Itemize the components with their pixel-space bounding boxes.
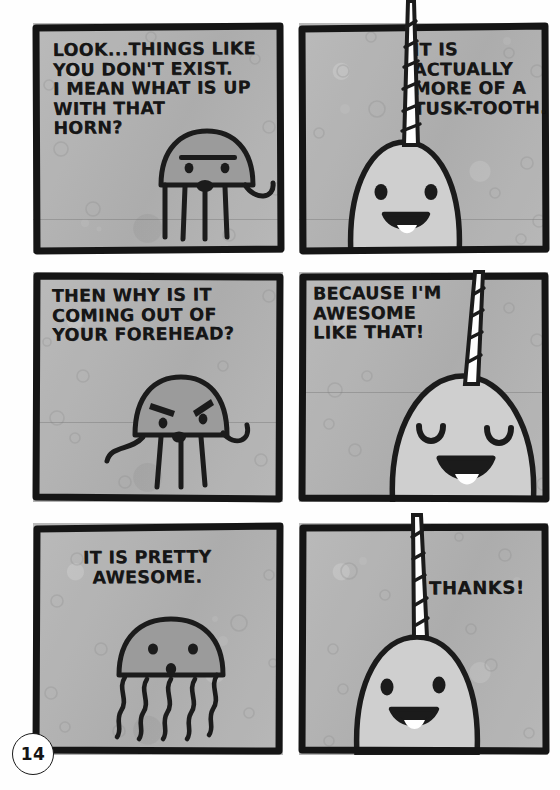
narwhal-tusk: [391, 0, 431, 147]
jellyfish-character: [151, 123, 279, 243]
comic-panel-3: THEN WHY IS IT COMING OUT OF YOUR FOREHE…: [33, 272, 283, 502]
comic-panel-2: IT IS ACTUALLY MORE OF A TUSK-TOOTH.: [299, 23, 548, 253]
panel-1-caption: LOOK...THINGS LIKE YOU DON'T EXIST. I ME…: [53, 39, 257, 139]
comic-page: LOOK...THINGS LIKE YOU DON'T EXIST. I ME…: [0, 0, 560, 790]
panel-5-caption: IT IS PRETTY AWESOME.: [83, 547, 212, 587]
narwhal-tusk: [451, 270, 495, 386]
page-number-badge: 14: [12, 733, 54, 775]
page-number-label: 14: [21, 744, 46, 764]
comic-panel-1: LOOK...THINGS LIKE YOU DON'T EXIST. I ME…: [33, 23, 283, 253]
panel-2-caption: IT IS ACTUALLY MORE OF A TUSK-TOOTH.: [413, 39, 547, 119]
narwhal-body: [347, 625, 487, 755]
panel-4-caption: BECAUSE I'M AWESOME LIKE THAT!: [313, 283, 442, 343]
comic-panel-4: BECAUSE I'M AWESOME LIKE THAT!: [299, 272, 548, 502]
comic-panel-6: THANKS!: [299, 523, 548, 755]
panel-3-caption: THEN WHY IS IT COMING OUT OF YOUR FOREHE…: [52, 285, 235, 345]
panel-6-caption: THANKS!: [429, 578, 525, 599]
jellyfish-character: [93, 367, 253, 492]
jellyfish-character: [101, 611, 241, 739]
narwhal-tusk: [397, 513, 441, 639]
comic-panel-5: IT IS PRETTY AWESOME.: [33, 523, 283, 755]
